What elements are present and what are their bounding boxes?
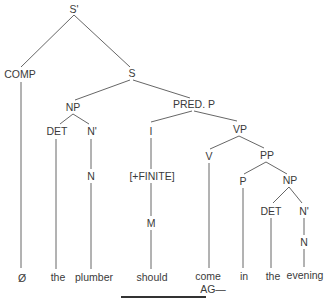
node-comp: COMP xyxy=(3,69,37,80)
edge-np-det-obj xyxy=(273,187,289,203)
node-i: I xyxy=(149,126,154,137)
node-det-object: DET xyxy=(260,206,283,217)
leaf-evening: evening xyxy=(286,270,325,281)
edge-np-det xyxy=(60,114,73,124)
edge-sbar-s xyxy=(74,15,130,67)
edge-np-nbar-obj xyxy=(289,187,302,203)
edge-predp-i xyxy=(151,111,192,122)
leaf-null-complementizer: Ø xyxy=(17,273,27,284)
leaf-in: in xyxy=(239,271,249,282)
edge-vp-v xyxy=(210,136,239,149)
node-np-subject: NP xyxy=(65,102,82,113)
node-det-subject: DET xyxy=(46,126,69,137)
node-vp: VP xyxy=(232,124,248,135)
annotation-ag: AG— xyxy=(199,284,227,295)
leaf-plumber: plumber xyxy=(74,272,114,283)
syntax-tree-diagram: S' COMP S NP PRED. P DET N' I VP N [+FIN… xyxy=(0,0,328,304)
node-m: M xyxy=(146,218,157,229)
edge-vp-pp xyxy=(239,136,264,148)
tree-edges xyxy=(0,0,328,304)
leaf-the-subject: the xyxy=(50,272,67,283)
node-s-bar: S' xyxy=(68,4,79,15)
edge-pp-p xyxy=(244,162,266,174)
node-finite-feature: [+FINITE] xyxy=(128,171,175,182)
edge-np-nbar xyxy=(73,114,89,124)
edge-s-np xyxy=(75,80,130,100)
node-n-subject: N xyxy=(86,171,96,182)
leaf-come: come xyxy=(194,271,222,282)
edge-predp-vp xyxy=(194,111,237,121)
node-n-object: N xyxy=(299,237,309,248)
edge-sbar-comp xyxy=(21,15,74,67)
node-nbar-subject: N' xyxy=(86,126,98,137)
node-v: V xyxy=(204,151,213,162)
node-nbar-object: N' xyxy=(298,206,310,217)
node-pp: PP xyxy=(259,150,275,161)
leaf-should: should xyxy=(136,272,169,283)
edge-pp-np xyxy=(266,162,287,174)
node-np-object: NP xyxy=(282,175,299,186)
leaf-the-object: the xyxy=(265,271,282,282)
node-s: S xyxy=(127,68,136,79)
node-pred-p: PRED. P xyxy=(172,99,216,110)
edge-s-predp xyxy=(133,80,190,98)
node-p: P xyxy=(238,176,247,187)
